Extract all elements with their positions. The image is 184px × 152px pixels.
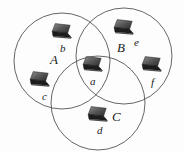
set-label-A: A: [50, 53, 58, 66]
node-label-d: d: [97, 125, 103, 136]
set-label-C: C: [112, 110, 121, 123]
node-label-e: e: [134, 37, 139, 48]
node-label-b: b: [60, 43, 66, 54]
laptop-icon: [88, 107, 107, 122]
laptop-icon: [83, 57, 102, 72]
laptop-icons-group: [30, 20, 161, 122]
venn-network-diagram: abcdefABC: [0, 0, 184, 152]
laptop-icon: [114, 20, 133, 35]
laptop-icon: [142, 57, 161, 72]
node-label-c: c: [42, 91, 47, 102]
set-label-B: B: [117, 41, 125, 54]
node-label-a: a: [90, 76, 96, 87]
node-label-f: f: [151, 77, 154, 88]
laptop-icon: [30, 72, 49, 87]
laptop-icon: [52, 24, 71, 39]
